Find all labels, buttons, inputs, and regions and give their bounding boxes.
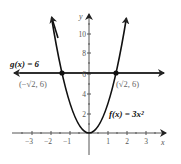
x-tick-labels: −3 −2 −1 1 2 3	[25, 137, 148, 146]
y-tick-labels: 2 4 6 8 10	[79, 30, 87, 119]
svg-text:10: 10	[79, 30, 87, 39]
svg-text:2: 2	[125, 137, 129, 146]
svg-text:6: 6	[82, 70, 86, 79]
f-label: f(x) = 3x²	[109, 109, 144, 119]
svg-text:8: 8	[82, 49, 86, 58]
point-left-label: (−√2, 6)	[19, 79, 47, 89]
y-axis-label: y	[78, 12, 83, 21]
g-label: g(x) = 6	[9, 59, 40, 69]
coordinate-plane: g(x) = 6 (−√2, 6) (√2, 6) f(x) = 3x² x y…	[0, 0, 181, 164]
svg-text:1: 1	[106, 137, 110, 146]
point-right-label: (√2, 6)	[116, 79, 139, 89]
svg-text:3: 3	[144, 137, 148, 146]
graph-figure: g(x) = 6 (−√2, 6) (√2, 6) f(x) = 3x² x y…	[0, 0, 181, 164]
svg-text:−3: −3	[25, 137, 33, 146]
point-right	[113, 70, 118, 75]
svg-text:−2: −2	[44, 137, 52, 146]
svg-text:−1: −1	[63, 137, 71, 146]
svg-text:2: 2	[82, 110, 86, 119]
point-left	[59, 70, 64, 75]
x-axis-label: x	[160, 138, 165, 147]
svg-text:4: 4	[82, 90, 86, 99]
